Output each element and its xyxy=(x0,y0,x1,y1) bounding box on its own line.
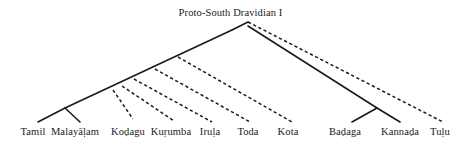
solid-branches xyxy=(38,22,400,122)
edge-to-kota xyxy=(178,57,292,122)
edge-left-spine xyxy=(65,30,232,108)
leaf-label-toda: Toda xyxy=(237,126,258,137)
leaf-label-kota: Kota xyxy=(278,126,299,137)
edge-to-tamil xyxy=(38,108,65,122)
leaf-label-malayalam: Malayāḷam xyxy=(51,126,99,137)
tree-branches xyxy=(0,0,461,146)
leaf-label-kurumba: Kuṛumba xyxy=(151,126,191,137)
leaf-label-tamil: Tamil xyxy=(21,126,46,137)
edge-to-kodagu xyxy=(113,90,133,119)
edge-to-kurumba xyxy=(122,86,174,121)
edge-to-badaga xyxy=(352,108,377,122)
leaf-label-badaga: Baḍaga xyxy=(329,126,361,137)
edge-to-kannada xyxy=(377,108,400,122)
leaf-label-kannada: Kannaḍa xyxy=(381,126,419,137)
language-family-tree-diagram: Proto-South Dravidian I Tami xyxy=(0,0,461,146)
edge-to-toda xyxy=(155,69,250,122)
dashed-branches xyxy=(113,22,443,122)
leaf-label-kodagu: Koḍagu xyxy=(111,126,145,137)
leaf-label-tulu: Tuḷu xyxy=(430,126,450,137)
edge-root-to-badaga-kannada xyxy=(248,26,377,108)
edge-root-to-tulu xyxy=(248,22,443,122)
edge-root-to-left-spine xyxy=(232,22,248,30)
edge-to-malayalam xyxy=(65,108,80,122)
edge-to-irula xyxy=(134,79,212,122)
leaf-label-irula: Iruḷa xyxy=(200,126,220,137)
